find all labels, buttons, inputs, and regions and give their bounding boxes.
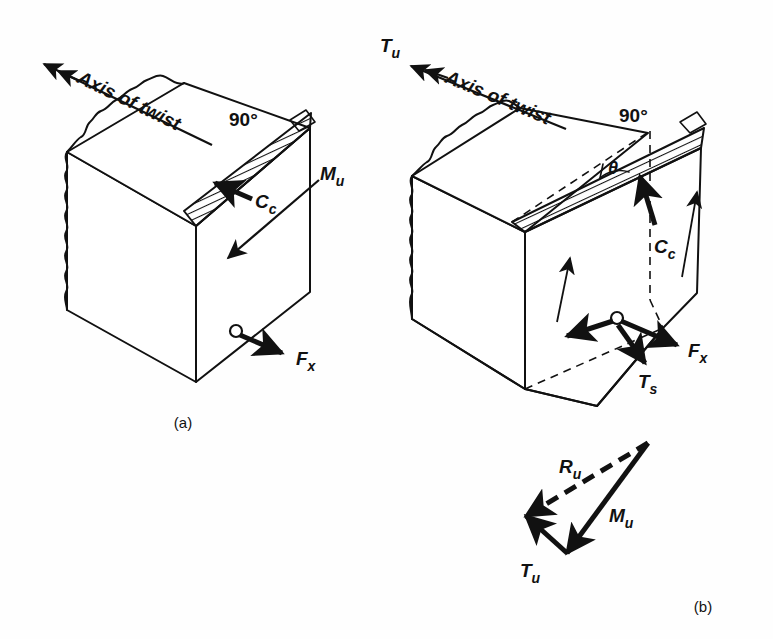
angle-90-label-a: 90° [229,109,258,130]
engineering-diagram: Axis of twist 90° Cc Mu Fx (a) [0,0,773,639]
Fx-label-b: Fx [688,340,709,366]
panel-b: Axis of twist Tu 90° θ Cc [380,35,709,406]
caption-a: (a) [174,414,192,431]
Mu-vector [567,443,648,553]
vector-triangle-b: Ru Mu Tu (b) [520,443,712,615]
Fx-arrow-a [240,335,282,353]
Ru-label: Ru [559,456,582,482]
Ru-vector [526,443,648,516]
Tu-label-b: Tu [380,35,401,61]
axis-of-twist-label-b: Axis of twist [442,66,555,129]
figure-container: Axis of twist 90° Cc Mu Fx (a) [0,0,773,639]
theta-label: θ [608,158,618,178]
caption-b: (b) [694,598,712,615]
Mu-label-triangle: Mu [609,505,634,531]
Fx-label-a: Fx [296,348,317,374]
Ts-label-b: Ts [638,371,658,397]
Tu-vector [526,516,567,553]
Tu-label-triangle: Tu [520,560,541,586]
angle-90-label-b: 90° [619,105,648,126]
Mu-label-a: Mu [320,163,345,189]
panel-a: Axis of twist 90° Cc Mu Fx (a) [44,64,345,431]
